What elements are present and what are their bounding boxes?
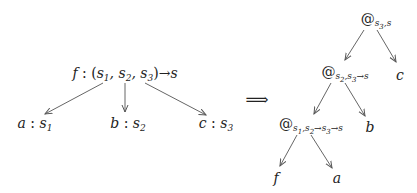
edge-app2-app1 [314, 83, 331, 114]
edge-f-c [145, 83, 206, 115]
right-node-a: a [333, 171, 341, 185]
edge-app1-a [311, 135, 332, 168]
edges-layer [0, 0, 417, 193]
edge-f-a [45, 83, 103, 114]
left-child-c: c : s3 [199, 116, 233, 133]
right-node-b: b [366, 120, 375, 134]
right-node-c: c [396, 68, 404, 82]
left-root-node: f : (s1, s2, s3)→s [72, 66, 177, 83]
implies-arrow-icon: ⟹ [246, 92, 269, 108]
edge-app2-b [345, 83, 365, 116]
left-child-a: a : s1 [18, 116, 53, 133]
right-node-f: f [273, 171, 278, 185]
right-node-apply-1: @s1,s2→s3→s [279, 116, 343, 136]
left-child-b: b : s2 [110, 116, 146, 133]
right-root-apply: @s3,s [361, 11, 392, 31]
edge-root-c [377, 30, 396, 62]
edge-app1-f [280, 135, 297, 166]
right-node-apply-2: @s2,s3→s [321, 64, 368, 84]
edge-root-app2 [345, 30, 364, 60]
